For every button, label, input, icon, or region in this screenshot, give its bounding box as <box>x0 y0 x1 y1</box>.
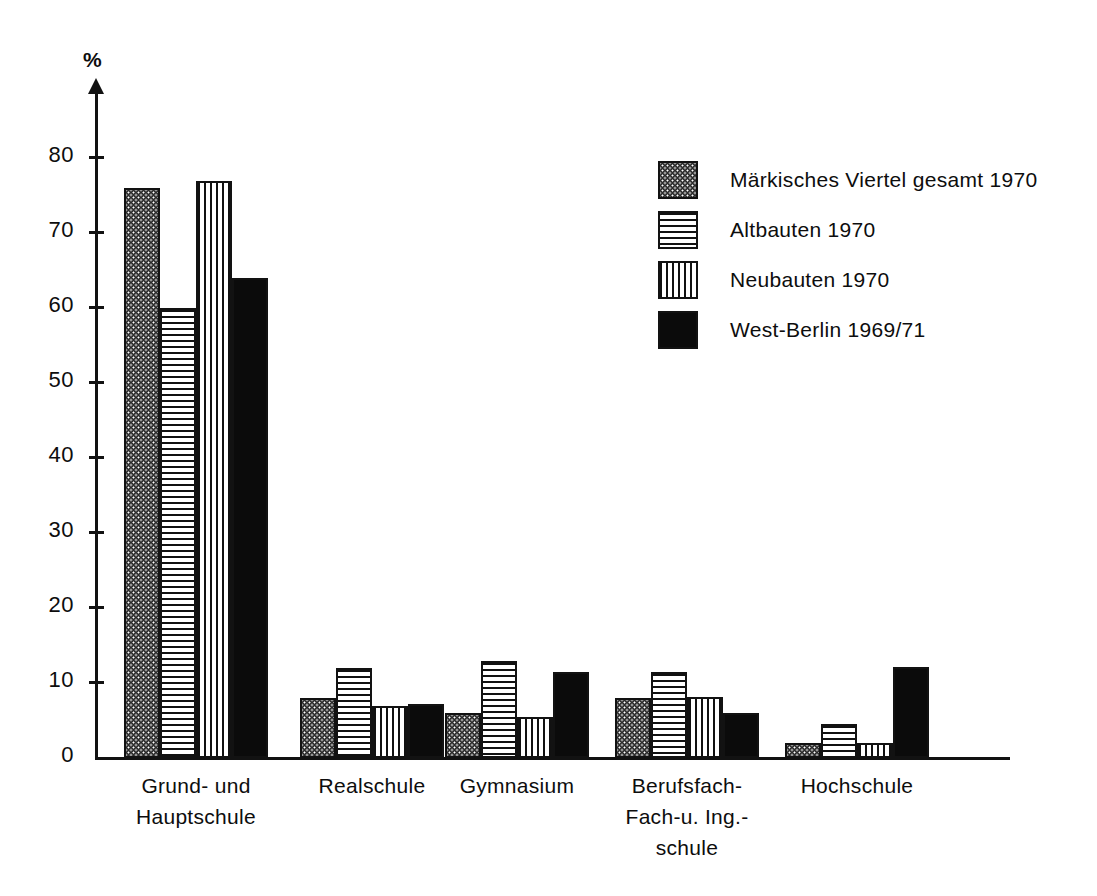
bar-chart: % 01020304050607080 Grund- und Hauptschu… <box>0 0 1097 896</box>
bar <box>124 188 160 758</box>
y-axis-unit-label: % <box>83 48 102 72</box>
y-axis-tick-label: 10 <box>28 667 74 693</box>
bar <box>445 713 481 758</box>
y-axis-tick-label: 50 <box>28 367 74 393</box>
bar <box>408 704 444 758</box>
bar <box>615 698 651 758</box>
bar-group <box>124 88 268 758</box>
bar <box>336 668 372 758</box>
y-axis-tick-label: 20 <box>28 592 74 618</box>
legend-item-label: Märkisches Viertel gesamt 1970 <box>730 168 1037 192</box>
bar-group <box>300 88 444 758</box>
bar <box>785 743 821 758</box>
bar <box>300 698 336 758</box>
legend-item-label: Altbauten 1970 <box>730 218 876 242</box>
legend-item-label: Neubauten 1970 <box>730 268 890 292</box>
bar <box>687 697 723 759</box>
legend-swatch <box>658 211 698 249</box>
bar <box>723 713 759 758</box>
legend-item[interactable]: Neubauten 1970 <box>658 255 1037 305</box>
bar <box>517 717 553 758</box>
bar <box>857 743 893 758</box>
y-axis-tick-label: 60 <box>28 292 74 318</box>
bar <box>232 278 268 758</box>
y-axis-tick-label: 40 <box>28 442 74 468</box>
bar-group <box>445 88 589 758</box>
bar <box>196 181 232 759</box>
y-axis-tick-label: 70 <box>28 217 74 243</box>
bar <box>821 724 857 758</box>
legend-swatch <box>658 261 698 299</box>
y-axis-tick-label: 0 <box>28 742 74 768</box>
y-axis-tick-label: 80 <box>28 142 74 168</box>
legend-swatch <box>658 161 698 199</box>
legend-item[interactable]: Altbauten 1970 <box>658 205 1037 255</box>
y-axis-tick-label: 30 <box>28 517 74 543</box>
legend: Märkisches Viertel gesamt 1970Altbauten … <box>658 155 1037 355</box>
bar <box>553 672 589 758</box>
x-axis-category-label: Hochschule <box>727 770 987 801</box>
legend-swatch <box>658 311 698 349</box>
bar <box>372 706 408 759</box>
legend-item[interactable]: West-Berlin 1969/71 <box>658 305 1037 355</box>
legend-item[interactable]: Märkisches Viertel gesamt 1970 <box>658 155 1037 205</box>
bar <box>160 308 196 758</box>
bar <box>893 667 929 759</box>
legend-item-label: West-Berlin 1969/71 <box>730 318 926 342</box>
bar <box>481 661 517 759</box>
bar <box>651 672 687 758</box>
